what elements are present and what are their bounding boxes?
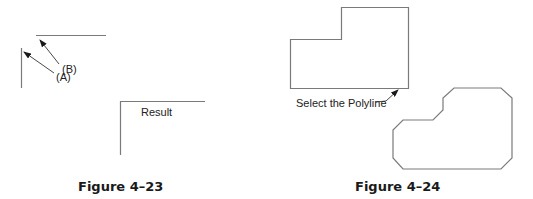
caption-figure-4-23: Figure 4–23 xyxy=(78,180,163,193)
label-result: Result xyxy=(141,107,172,118)
polyline-shape xyxy=(291,8,409,89)
arrow-b-icon xyxy=(40,40,59,64)
label-select-polyline: Select the Polyline xyxy=(296,98,387,109)
chamfered-polyline-shape xyxy=(393,88,512,169)
figure-page: (B) (A) Result Select the Polyline Figur… xyxy=(0,0,533,199)
figure-4-23-drawing xyxy=(22,36,206,156)
caption-figure-4-24: Figure 4–24 xyxy=(355,180,440,193)
arrow-a-icon xyxy=(24,52,54,73)
select-arrow-icon xyxy=(386,90,398,101)
label-point-a: (A) xyxy=(56,72,71,83)
figure-4-24-drawing xyxy=(291,8,513,170)
